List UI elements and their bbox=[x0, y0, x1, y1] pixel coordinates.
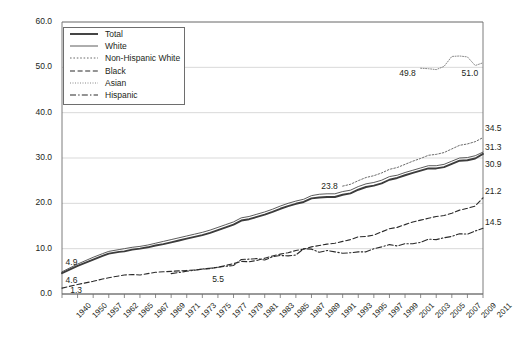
legend-label: White bbox=[105, 41, 127, 51]
y-axis-tick-label: 10.0 bbox=[18, 243, 52, 253]
value-label: 51.0 bbox=[462, 68, 479, 78]
legend-item[interactable]: Non-Hispanic White bbox=[64, 52, 184, 64]
legend-swatch-dash-dot bbox=[69, 90, 99, 100]
value-label: 21.2 bbox=[485, 186, 502, 196]
legend-label: Non-Hispanic White bbox=[105, 53, 180, 63]
value-label: 49.8 bbox=[399, 68, 416, 78]
y-axis-tick-label: 0.0 bbox=[18, 288, 52, 298]
value-label: 30.9 bbox=[485, 159, 502, 169]
y-axis-tick-label: 50.0 bbox=[18, 61, 52, 71]
value-label: 23.8 bbox=[321, 181, 338, 191]
legend-label: Hispanic bbox=[105, 90, 138, 100]
value-label: 34.5 bbox=[485, 123, 502, 133]
value-label: 4.6 bbox=[66, 275, 78, 285]
value-label: 31.3 bbox=[485, 142, 502, 152]
legend-item[interactable]: Black bbox=[64, 65, 184, 77]
legend-swatch-dashed bbox=[69, 66, 99, 76]
value-label: 4.9 bbox=[66, 257, 78, 267]
series-line bbox=[171, 228, 483, 273]
legend-item[interactable]: Hispanic bbox=[64, 89, 184, 101]
x-axis-ticks bbox=[62, 294, 483, 298]
legend-label: Total bbox=[105, 29, 123, 39]
legend-item[interactable]: White bbox=[64, 40, 184, 52]
series-line bbox=[343, 138, 483, 187]
series-line bbox=[62, 154, 483, 273]
legend-swatch-thick-solid bbox=[69, 29, 99, 39]
legend-swatch-fine-dotted bbox=[69, 78, 99, 88]
y-axis-tick-label: 30.0 bbox=[18, 152, 52, 162]
chart-legend[interactable]: TotalWhiteNon-Hispanic WhiteBlackAsianHi… bbox=[63, 27, 185, 105]
legend-label: Black bbox=[105, 66, 126, 76]
legend-swatch-dotted bbox=[69, 53, 99, 63]
legend-swatch-thin-solid bbox=[69, 41, 99, 51]
y-axis-tick-label: 20.0 bbox=[18, 197, 52, 207]
legend-item[interactable]: Total bbox=[64, 28, 184, 40]
legend-label: Asian bbox=[105, 78, 126, 88]
value-label: 1.3 bbox=[70, 285, 82, 295]
legend-item[interactable]: Asian bbox=[64, 77, 184, 89]
y-axis-tick-label: 60.0 bbox=[18, 16, 52, 26]
y-axis-tick-label: 40.0 bbox=[18, 107, 52, 117]
value-label: 14.5 bbox=[485, 217, 502, 227]
value-label: 5.5 bbox=[212, 274, 224, 284]
